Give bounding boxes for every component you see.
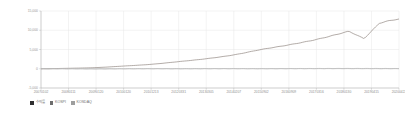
legend-item-1[interactable]: 수익률 (30, 101, 45, 105)
legend-item-3[interactable]: KOSDAQ (71, 101, 92, 105)
chart-legend: 수익률KOSPIKOSDAQ (30, 101, 92, 105)
y-axis-labels: 15,00010,0005,0000-5,000 (28, 9, 38, 90)
svg-text:20190415: 20190415 (364, 90, 379, 94)
svg-text:5,000: 5,000 (30, 48, 39, 52)
svg-text:0: 0 (36, 67, 38, 71)
x-axis-labels: 2007010220080111200901202010012020101213… (34, 90, 405, 94)
legend-swatch-icon (71, 101, 75, 105)
svg-text:20100120: 20100120 (116, 90, 131, 94)
svg-text:20090120: 20090120 (89, 90, 104, 94)
svg-text:15,000: 15,000 (28, 9, 38, 13)
chart-svg: 15,00010,0005,0000-5,000 200701022008011… (0, 0, 405, 100)
legend-label: KOSPI (55, 101, 66, 105)
svg-text:20080111: 20080111 (61, 90, 75, 94)
legend-label: 수익률 (36, 101, 45, 105)
svg-text:20180130: 20180130 (337, 90, 352, 94)
chart-series-lines (41, 19, 399, 69)
svg-text:20200422: 20200422 (392, 90, 405, 94)
y-gridlines (41, 11, 399, 88)
chart-plot-area: 15,00010,0005,0000-5,000 200701022008011… (0, 0, 405, 100)
legend-label: KOSDAQ (77, 101, 92, 105)
return-comparison-chart: 15,00010,0005,0000-5,000 200701022008011… (0, 0, 405, 118)
svg-text:20160909: 20160909 (282, 90, 297, 94)
svg-text:20070102: 20070102 (34, 90, 49, 94)
legend-swatch-icon (50, 101, 54, 105)
svg-text:20170316: 20170316 (309, 90, 324, 94)
svg-text:10,000: 10,000 (28, 28, 38, 32)
svg-text:20130305: 20130305 (199, 90, 214, 94)
legend-swatch-icon (30, 101, 34, 105)
svg-text:20150902: 20150902 (254, 90, 269, 94)
legend-item-2[interactable]: KOSPI (50, 101, 67, 105)
svg-text:20120331: 20120331 (171, 90, 186, 94)
svg-text:20140207: 20140207 (226, 90, 241, 94)
svg-text:20101213: 20101213 (144, 90, 159, 94)
